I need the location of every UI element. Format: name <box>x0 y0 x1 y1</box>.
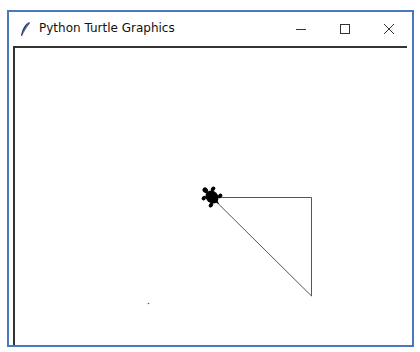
triangle-path <box>212 198 312 297</box>
dot <box>148 303 150 305</box>
turtle-drawing <box>0 0 420 352</box>
